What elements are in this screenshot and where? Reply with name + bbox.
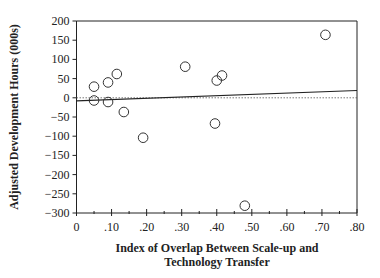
x-tick-label: .50 xyxy=(244,220,259,234)
y-tick-label: 50 xyxy=(58,72,70,86)
ticks: 0.10.20.30.40.50.60.70.80200150100500−50… xyxy=(45,14,365,234)
data-point xyxy=(321,30,331,40)
y-tick-label: 100 xyxy=(52,52,70,66)
y-tick-label: −50 xyxy=(51,110,70,124)
data-points xyxy=(89,30,330,210)
x-tick-label: 0 xyxy=(74,220,80,234)
axes xyxy=(77,21,358,213)
data-point xyxy=(212,76,222,86)
x-tick-label: .60 xyxy=(279,220,294,234)
scatter-chart: 0.10.20.30.40.50.60.70.80200150100500−50… xyxy=(0,0,380,278)
data-point xyxy=(103,78,113,88)
y-tick-label: 0 xyxy=(64,91,70,105)
x-tick-label: .40 xyxy=(209,220,224,234)
data-point xyxy=(240,201,250,211)
x-tick-label: .30 xyxy=(174,220,189,234)
y-tick-label: 150 xyxy=(52,33,70,47)
y-tick-label: −300 xyxy=(45,206,70,220)
x-tick-label: .80 xyxy=(350,220,365,234)
x-axis-title-line-2: Technology Transfer xyxy=(164,255,270,269)
x-axis-title-line-1: Index of Overlap Between Scale-up and xyxy=(115,241,318,255)
data-point xyxy=(138,133,148,143)
data-point xyxy=(103,97,113,107)
y-tick-label: −100 xyxy=(45,129,70,143)
data-point xyxy=(210,119,220,129)
data-point xyxy=(180,62,190,72)
data-point xyxy=(112,69,122,79)
lines xyxy=(77,91,358,101)
regression-line xyxy=(77,91,358,101)
y-axis-title: Adjusted Development Hours (000s) xyxy=(7,24,21,210)
y-tick-label: 200 xyxy=(52,14,70,28)
y-tick-label: −200 xyxy=(45,168,70,182)
x-tick-label: .10 xyxy=(104,220,119,234)
y-tick-label: −250 xyxy=(45,187,70,201)
data-point xyxy=(89,82,99,92)
data-point xyxy=(217,71,227,81)
x-tick-label: .20 xyxy=(139,220,154,234)
x-tick-label: .70 xyxy=(314,220,329,234)
data-point xyxy=(119,107,129,117)
y-tick-label: −150 xyxy=(45,148,70,162)
